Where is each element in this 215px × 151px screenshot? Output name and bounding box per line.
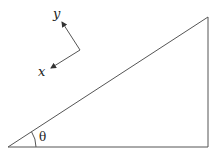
y-axis-label: y <box>52 6 61 21</box>
angle-arc <box>32 132 37 147</box>
triangle-hypotenuse <box>8 17 208 147</box>
y-axis-arrow <box>62 22 80 50</box>
angle-label: θ <box>39 130 46 144</box>
triangle-diagram: θ y x <box>0 0 215 151</box>
x-axis-label: x <box>38 64 46 79</box>
x-axis-arrow <box>51 50 80 68</box>
